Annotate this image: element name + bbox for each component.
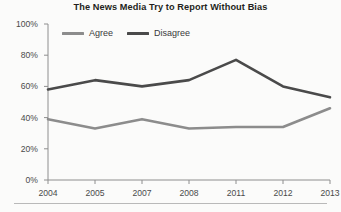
series-line-disagree [48, 60, 330, 97]
series-line-agree [48, 108, 330, 128]
plot-area [0, 0, 341, 212]
bottom-rule [14, 203, 327, 204]
chart-container: The News Media Try to Report Without Bia… [0, 0, 341, 212]
